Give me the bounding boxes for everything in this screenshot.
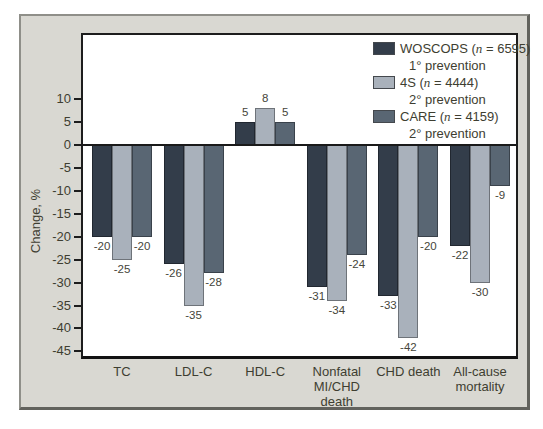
legend-entry-label: 4S (n = 4444) (400, 75, 478, 91)
legend-entry-sublabel: 2° prevention (373, 125, 530, 142)
legend-entry-label: CARE (n = 4159) (400, 109, 499, 125)
y-tick-label: 0 (31, 137, 71, 152)
bar-woscops-chd-death (378, 145, 398, 296)
y-tick-mark (74, 259, 83, 261)
x-axis-label-all-cause-mortality: All-cause mortality (434, 364, 526, 394)
y-tick-label: -45 (31, 343, 71, 358)
y-tick-label: -10 (31, 183, 71, 198)
bar-value-label: -35 (174, 309, 214, 321)
bar-value-label: -28 (194, 276, 234, 288)
bar-value-label: -20 (82, 240, 122, 252)
bar-value-label: -42 (388, 341, 428, 353)
bar-care-tc (132, 145, 152, 237)
y-tick-label: -35 (31, 298, 71, 313)
plot-area: Change, % 1050-5-10-15-20-25-30-35-40-45… (81, 33, 518, 359)
bar-woscops-hdl-c (235, 122, 255, 145)
y-tick-mark (74, 213, 83, 215)
y-tick-label: -20 (31, 229, 71, 244)
bar-value-label: -25 (102, 263, 142, 275)
bar-4s-nonfatal-mi-chd-death (327, 145, 347, 301)
bar-care-all-cause-mortality (490, 145, 510, 186)
legend-entry-care: CARE (n = 4159)2° prevention (373, 108, 530, 142)
bar-value-label: -30 (460, 286, 500, 298)
figure: Change, % 1050-5-10-15-20-25-30-35-40-45… (0, 0, 543, 429)
y-tick-label: -15 (31, 206, 71, 221)
y-tick-label: -25 (31, 252, 71, 267)
y-tick-mark (74, 167, 83, 169)
y-tick-mark (74, 121, 83, 123)
y-tick-label: 10 (31, 91, 71, 106)
bar-woscops-tc (92, 145, 112, 237)
bar-value-label: -24 (337, 258, 377, 270)
y-tick-label: -30 (31, 275, 71, 290)
legend-entry-4s: 4S (n = 4444)2° prevention (373, 74, 530, 108)
bar-care-nonfatal-mi-chd-death (347, 145, 367, 255)
legend-entry-woscops: WOSCOPS (n = 6595)1° prevention (373, 40, 530, 74)
bar-value-label: 8 (245, 92, 285, 104)
zero-baseline (83, 144, 516, 146)
chart-panel: Change, % 1050-5-10-15-20-25-30-35-40-45… (19, 14, 530, 410)
bar-care-hdl-c (275, 122, 295, 145)
bar-value-label: -20 (122, 240, 162, 252)
legend-entry-label: WOSCOPS (n = 6595) (400, 41, 530, 57)
bar-woscops-all-cause-mortality (450, 145, 470, 246)
bar-woscops-nonfatal-mi-chd-death (307, 145, 327, 287)
legend-entry-row: CARE (n = 4159) (373, 108, 530, 125)
y-tick-mark (74, 350, 83, 352)
bar-value-label: 5 (265, 106, 305, 118)
bar-4s-all-cause-mortality (470, 145, 490, 283)
legend-entry-row: 4S (n = 4444) (373, 74, 530, 91)
y-tick-mark (74, 282, 83, 284)
bar-woscops-ldl-c (164, 145, 184, 264)
legend-swatch-4s (373, 76, 395, 89)
bar-value-label: 5 (225, 106, 265, 118)
bar-care-ldl-c (204, 145, 224, 273)
bar-value-label: -34 (317, 304, 357, 316)
legend-swatch-woscops (373, 42, 395, 55)
bar-care-chd-death (418, 145, 438, 237)
bar-value-label: -26 (154, 267, 194, 279)
y-tick-mark (74, 327, 83, 329)
bar-value-label: -31 (297, 290, 337, 302)
y-tick-mark (74, 236, 83, 238)
legend-entry-row: WOSCOPS (n = 6595) (373, 40, 530, 57)
y-tick-mark (74, 190, 83, 192)
legend-entry-sublabel: 1° prevention (373, 57, 530, 74)
y-tick-label: -5 (31, 160, 71, 175)
y-tick-label: -40 (31, 320, 71, 335)
legend-swatch-care (373, 110, 395, 123)
bar-value-label: -9 (480, 189, 520, 201)
y-tick-mark (74, 98, 83, 100)
y-tick-label: 5 (31, 114, 71, 129)
legend: WOSCOPS (n = 6595)1° prevention4S (n = 4… (373, 40, 530, 142)
y-tick-mark (74, 305, 83, 307)
bar-value-label: -33 (368, 299, 408, 311)
y-tick-mark (74, 144, 83, 146)
bar-value-label: -20 (408, 240, 448, 252)
legend-entry-sublabel: 2° prevention (373, 91, 530, 108)
